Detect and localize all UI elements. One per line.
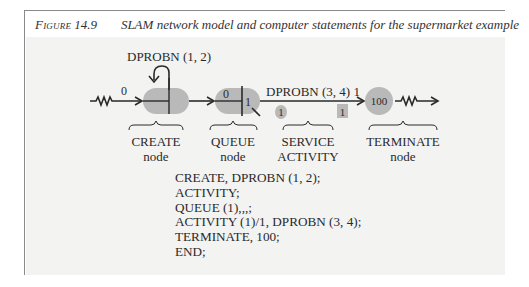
self-loop-arrow xyxy=(154,66,169,90)
terminate-label: TERMINATE xyxy=(366,134,440,149)
create-label: CREATE xyxy=(131,134,180,149)
code-line: TERMINATE, 100; xyxy=(175,230,361,245)
queue-label: QUEUE xyxy=(211,134,255,149)
service-label: SERVICE xyxy=(281,134,334,149)
service-type: ACTIVITY xyxy=(277,149,339,164)
activity-servers-value: 1 xyxy=(278,106,284,118)
terminate-count: 100 xyxy=(371,95,388,107)
create-brace xyxy=(129,121,183,130)
entry-arrow xyxy=(90,97,142,105)
code-line: ACTIVITY; xyxy=(175,186,361,201)
queue-file-number: 1 xyxy=(245,95,251,109)
service-duration-label: DPROBN (3, 4) 1 xyxy=(266,84,360,99)
create-node xyxy=(143,66,189,114)
code-line: ACTIVITY (1)/1, DPROBN (3, 4); xyxy=(175,215,361,230)
terminate-brace xyxy=(369,121,437,130)
code-line: CREATE, DPROBN (1, 2); xyxy=(175,171,361,186)
queue-brace xyxy=(210,121,257,130)
code-line: QUEUE (1),,,; xyxy=(175,201,361,216)
braces xyxy=(129,121,437,130)
exit-arrow xyxy=(395,97,438,105)
slam-statements: CREATE, DPROBN (1, 2); ACTIVITY; QUEUE (… xyxy=(175,171,361,260)
terminate-type: node xyxy=(390,149,416,164)
queue-type: node xyxy=(220,149,246,164)
create-interarrival-label: DPROBN (1, 2) xyxy=(127,49,211,64)
code-line: END; xyxy=(175,245,361,260)
activity-number-value: 1 xyxy=(340,106,346,118)
node-labels: CREATE node QUEUE node SERVICE ACTIVITY … xyxy=(131,134,439,164)
service-brace xyxy=(283,121,333,130)
queue-initial-count: 0 xyxy=(223,87,229,101)
create-type: node xyxy=(143,149,169,164)
create-first-time: 0 xyxy=(121,84,127,98)
queue-node xyxy=(215,86,260,116)
